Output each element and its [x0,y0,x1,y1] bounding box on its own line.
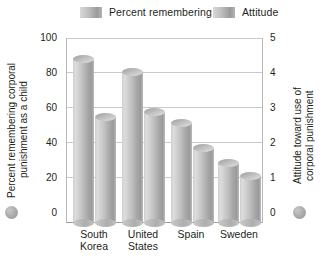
bar-united-states-attitude [144,112,165,223]
bar-foot-icon [240,219,261,227]
category-label-sweden: Sweden [209,228,269,240]
left-axis-tick-0: 0 [17,207,57,218]
legend-label-percent-remembering: Percent remembering [109,6,212,18]
bar-foot-icon [218,219,239,227]
bar-foot-icon [193,219,214,227]
legend-swatch-icon [213,7,235,18]
category-label-line-1: Sweden [209,228,269,240]
bar-cap-icon [73,55,94,63]
bar-cap-icon [95,113,116,121]
bar-cap-icon [171,119,192,127]
bar-cap-icon [122,68,143,76]
bar-foot-icon [73,219,94,227]
bar-south-korea-percent-remembering [73,59,94,223]
left-axis-title: Percent remembering corporal punishment … [6,56,30,204]
legend-item-attitude: Attitude [213,6,278,18]
right-axis-tick-5: 5 [270,32,300,43]
bar-cap-icon [218,159,239,167]
chart-legend: Percent remembering Attitude [0,6,325,24]
right-axis-marker-dot [293,206,306,219]
left-axis-marker-dot [5,206,18,219]
bar-foot-icon [95,219,116,227]
legend-swatch-icon [80,7,102,18]
bar-south-korea-attitude [95,117,116,223]
bar-foot-icon [122,219,143,227]
bar-foot-icon [171,219,192,227]
bar-sweden-percent-remembering [218,163,239,223]
bar-foot-icon [144,219,165,227]
grouped-bar-chart: Percent remembering Attitude 100 80 60 4… [0,0,325,273]
bar-sweden-attitude [240,176,261,223]
legend-item-percent-remembering: Percent remembering [80,6,212,18]
legend-label-attitude: Attitude [242,6,278,18]
category-label-line-2: States [113,240,173,252]
bar-spain-attitude [193,148,214,223]
bar-cap-icon [240,172,261,180]
bar-spain-percent-remembering [171,123,192,223]
bar-cap-icon [144,108,165,116]
bar-series-container [66,38,263,223]
bar-united-states-percent-remembering [122,72,143,223]
left-axis-tick-100: 100 [17,32,57,43]
bar-cap-icon [193,144,214,152]
right-axis-title: Attitude toward use of corporal punishme… [292,74,316,198]
